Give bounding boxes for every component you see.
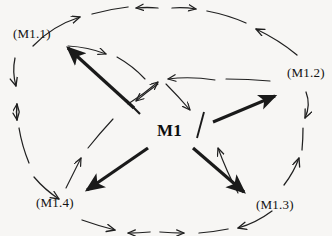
inner-arc-hub-left xyxy=(136,84,158,101)
outer-arc-m12-down xyxy=(305,92,308,118)
spoke-m1-to-m12-tail xyxy=(197,112,204,138)
outer-arc-bottom-right-arrow xyxy=(160,232,184,233)
inner-arc-top-dash xyxy=(117,57,145,79)
outer-arc-m13-up xyxy=(284,158,299,185)
spoke-m1-to-m11-tail xyxy=(126,100,140,114)
outer-arc-top-right-arrow xyxy=(172,8,196,9)
outer-arc-right-dash xyxy=(302,128,303,150)
outer-arc-m11-down xyxy=(14,58,16,86)
node-label-m12: (M1.2) xyxy=(287,66,325,79)
inner-arc-m12-dash xyxy=(226,79,270,81)
outer-arc-bottom-right xyxy=(238,211,272,228)
node-label-m14: (M1.4) xyxy=(36,196,74,209)
outer-arc-top-left-arrow xyxy=(136,8,158,9)
inner-arc-m14-dash xyxy=(88,119,113,148)
outer-arc-bottom-dash xyxy=(199,229,228,233)
outer-arc-m12-upleft xyxy=(256,29,297,55)
spokes-group xyxy=(68,48,275,192)
inner-arc-hub-downright xyxy=(166,84,190,110)
spoke-m1-to-m14 xyxy=(87,148,148,190)
outer-arc-bottom-left xyxy=(82,220,115,230)
outer-arc-top-1 xyxy=(92,7,128,14)
inner-arc-to-hub-lowerleft xyxy=(128,82,158,104)
outer-arc-left-dash xyxy=(19,128,29,163)
inner-arc-m12-to-hub xyxy=(168,78,215,80)
diagram-canvas: (M1.1) (M1.2) (M1.3) (M1.4) M1 xyxy=(0,0,332,236)
spoke-m1-to-m11 xyxy=(68,48,134,108)
spoke-m1-to-m13 xyxy=(193,148,244,192)
outer-arc-bottom-left-arrow xyxy=(128,232,150,233)
center-node-label-m1: M1 xyxy=(157,122,182,139)
inner-ring-group xyxy=(66,46,270,193)
node-label-m11: (M1.1) xyxy=(13,27,51,40)
spoke-m1-to-m12 xyxy=(213,96,275,122)
outer-arc-left-double-down xyxy=(17,104,18,120)
node-label-m13: (M1.3) xyxy=(256,198,294,211)
outer-arc-top-2 xyxy=(207,11,246,23)
inner-arc-m14-up xyxy=(66,158,81,188)
